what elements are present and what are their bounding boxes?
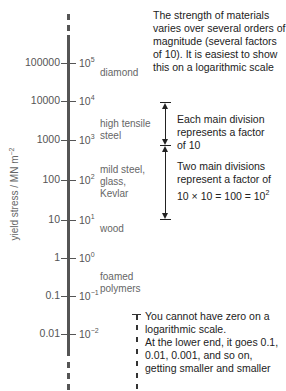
- tick-power: 103: [79, 133, 95, 146]
- note-zero: You cannot have zero on a logarithmic sc…: [145, 310, 278, 375]
- tick-power: 10−2: [79, 327, 99, 340]
- tick-mark: [61, 334, 76, 335]
- y-axis-label-text: yield stress / MN m: [9, 155, 20, 240]
- tick-decimal: 10000: [31, 94, 60, 106]
- tick-power: 102: [79, 173, 95, 186]
- bracket-cap-bottom: [160, 219, 171, 220]
- tick-mark: [61, 180, 76, 181]
- zero-marker-dash: [136, 384, 138, 389]
- tick-decimal: 0.01: [40, 327, 60, 339]
- material-wood: wood: [100, 223, 124, 235]
- bracket-line: [165, 108, 166, 141]
- tick-decimal: 1000: [37, 133, 60, 145]
- tick-power: 100: [79, 251, 95, 264]
- note-two-divisions: Two main divisions represent a factor of…: [177, 160, 271, 203]
- tick-decimal: 0.1: [45, 289, 60, 301]
- axis-dash-top-1: [67, 14, 70, 20]
- axis-dash-bottom-2: [67, 373, 70, 379]
- tick-decimal: 1: [54, 251, 60, 263]
- zero-marker-dash: [136, 349, 138, 354]
- zero-marker-dash: [136, 373, 138, 378]
- y-axis-label: yield stress / MN m−2: [8, 144, 20, 244]
- tick-power: 10−1: [79, 289, 99, 302]
- zero-marker-stem: [136, 314, 138, 320]
- note-one-division: Each main division represents a factor o…: [177, 113, 265, 152]
- tick-decimal: 10: [48, 213, 60, 225]
- material-high-tensile-steel: high tensile steel: [100, 118, 151, 142]
- axis-line: [67, 35, 70, 356]
- tick-decimal: 100: [42, 173, 60, 185]
- tick-power: 104: [79, 94, 95, 107]
- axis-dash-bottom-1: [67, 362, 70, 368]
- material-diamond: diamond: [100, 67, 138, 79]
- tick-power: 101: [79, 213, 95, 226]
- tick-mark: [61, 101, 76, 102]
- tick-mark: [61, 220, 76, 221]
- tick-power: 105: [79, 56, 95, 69]
- tick-mark: [61, 296, 76, 297]
- axis-dash-top-2: [67, 25, 70, 31]
- tick-mark: [61, 63, 76, 64]
- axis-dash-bottom-3: [67, 384, 70, 390]
- zero-marker-dash: [136, 337, 138, 342]
- y-axis-label-exponent: −2: [8, 148, 15, 156]
- tick-mark: [61, 258, 76, 259]
- tick-mark: [61, 140, 76, 141]
- note-intro: The strength of materials varies over se…: [153, 9, 285, 74]
- zero-marker-dash: [136, 361, 138, 366]
- bracket-line: [165, 151, 166, 214]
- zero-marker-dash: [136, 325, 138, 330]
- tick-decimal: 100000: [25, 56, 60, 68]
- material-mild-steel-glass-kevlar: mild steel, glass, Kevlar: [100, 164, 145, 200]
- material-foamed-polymers: foamed polymers: [100, 271, 141, 295]
